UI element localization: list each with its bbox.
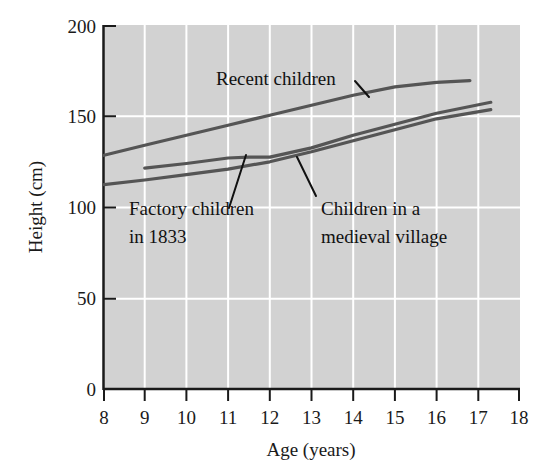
x-axis-ticks xyxy=(104,389,519,401)
x-tick-label: 8 xyxy=(99,407,109,428)
y-tick-label: 100 xyxy=(68,197,97,218)
y-tick-label: 0 xyxy=(87,379,97,400)
annotation-medieval-children-line1: Children in a xyxy=(321,198,421,219)
x-tick-label: 11 xyxy=(219,407,237,428)
x-tick-label: 14 xyxy=(344,407,364,428)
x-tick-label: 16 xyxy=(427,407,446,428)
x-tick-label: 12 xyxy=(260,407,279,428)
y-axis-tick-labels: 200 150 100 50 0 xyxy=(68,16,97,400)
annotation-medieval-children-line2: medieval village xyxy=(321,226,447,247)
y-tick-label: 50 xyxy=(77,288,96,309)
x-tick-label: 17 xyxy=(469,407,488,428)
y-axis-title: Height (cm) xyxy=(25,161,47,253)
annotation-factory-children-line1: Factory children xyxy=(129,198,255,219)
x-tick-label: 13 xyxy=(302,407,321,428)
x-tick-label: 9 xyxy=(140,407,150,428)
x-axis-title: Age (years) xyxy=(266,439,355,461)
annotation-factory-children-line2: in 1833 xyxy=(129,226,187,247)
y-tick-label: 150 xyxy=(68,106,97,127)
x-axis-tick-labels: 8 9 10 11 12 13 14 15 16 17 18 xyxy=(99,407,528,428)
annotation-recent-children: Recent children xyxy=(216,68,336,89)
x-tick-label: 10 xyxy=(177,407,196,428)
y-tick-label: 200 xyxy=(68,16,97,37)
x-tick-label: 15 xyxy=(385,407,404,428)
growth-chart-figure: 200 150 100 50 0 8 9 10 11 12 13 14 15 1… xyxy=(0,0,544,469)
x-tick-label: 18 xyxy=(510,407,529,428)
chart-canvas: 200 150 100 50 0 8 9 10 11 12 13 14 15 1… xyxy=(0,0,544,469)
